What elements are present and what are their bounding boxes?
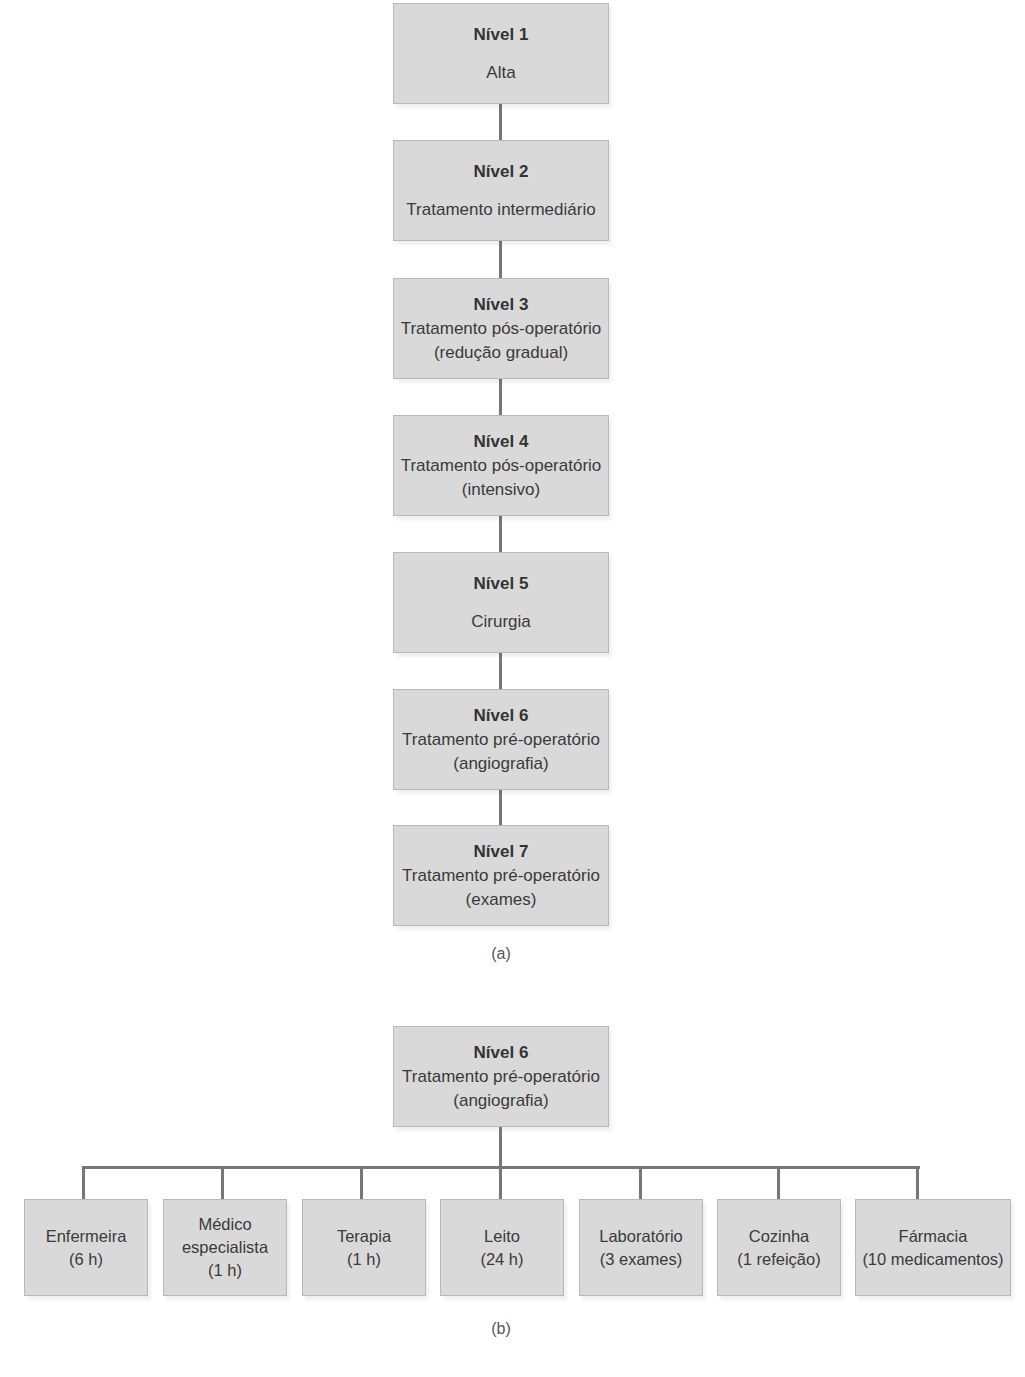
child-leito: Leito (24 h) — [440, 1199, 564, 1296]
child-enfermeira: Enfermeira (6 h) — [24, 1199, 148, 1296]
level-2-box: Nível 2 Tratamento intermediário — [393, 140, 609, 241]
level-desc: (angiografia) — [453, 752, 548, 776]
level-1-box: Nível 1 Alta — [393, 3, 609, 104]
level-desc: Tratamento pré-operatório — [402, 1065, 600, 1089]
level-desc: Tratamento pós-operatório — [401, 317, 602, 341]
child-connector — [916, 1166, 919, 1199]
level-desc: (angiografia) — [453, 1089, 548, 1113]
child-connector — [639, 1166, 642, 1199]
level-7-box: Nível 7 Tratamento pré-operatório (exame… — [393, 825, 609, 926]
caption-b: (b) — [471, 1320, 531, 1338]
child-value: (3 exames) — [600, 1248, 683, 1271]
level-desc: Tratamento pré-operatório — [402, 728, 600, 752]
level-desc: Cirurgia — [471, 610, 531, 634]
child-medico-especialista: Médico especialista (1 h) — [163, 1199, 287, 1296]
level-desc: (redução gradual) — [434, 341, 568, 365]
child-label: Enfermeira — [46, 1225, 127, 1248]
child-value: (10 medicamentos) — [862, 1248, 1003, 1271]
child-connector — [360, 1166, 363, 1199]
level-4-box: Nível 4 Tratamento pós-operatório (inten… — [393, 415, 609, 516]
level-title: Nível 5 — [474, 572, 529, 596]
child-label: Leito — [484, 1225, 520, 1248]
connector-1-2 — [499, 104, 502, 140]
level-5-box: Nível 5 Cirurgia — [393, 552, 609, 653]
caption-a: (a) — [471, 945, 531, 963]
level-desc: Tratamento pré-operatório — [402, 864, 600, 888]
child-label: Terapia — [337, 1225, 391, 1248]
child-value: (1 h) — [347, 1248, 381, 1271]
child-value: (1 h) — [208, 1259, 242, 1282]
child-connector — [82, 1166, 85, 1199]
connector-2-3 — [499, 241, 502, 278]
level-desc: Alta — [486, 61, 515, 85]
child-value: (6 h) — [69, 1248, 103, 1271]
child-cozinha: Cozinha (1 refeição) — [717, 1199, 841, 1296]
child-connector — [777, 1166, 780, 1199]
child-laboratorio: Laboratório (3 exames) — [579, 1199, 703, 1296]
level-3-box: Nível 3 Tratamento pós-operatório (reduç… — [393, 278, 609, 379]
child-farmacia: Fármacia (10 medicamentos) — [855, 1199, 1011, 1296]
child-label: especialista — [182, 1236, 268, 1259]
child-value: (1 refeição) — [737, 1248, 820, 1271]
level-title: Nível 2 — [474, 160, 529, 184]
level-desc: (intensivo) — [462, 478, 540, 502]
level-title: Nível 6 — [474, 1041, 529, 1065]
root-connector — [499, 1127, 502, 1168]
child-label: Laboratório — [599, 1225, 682, 1248]
child-value: (24 h) — [480, 1248, 523, 1271]
root-level-6-box: Nível 6 Tratamento pré-operatório (angio… — [393, 1026, 609, 1127]
level-title: Nível 6 — [474, 704, 529, 728]
level-desc: Tratamento pós-operatório — [401, 454, 602, 478]
connector-4-5 — [499, 516, 502, 552]
level-title: Nível 3 — [474, 293, 529, 317]
connector-6-7 — [499, 790, 502, 825]
level-title: Nível 4 — [474, 430, 529, 454]
connector-3-4 — [499, 379, 502, 415]
child-label: Cozinha — [749, 1225, 810, 1248]
connector-5-6 — [499, 653, 502, 689]
level-6-box: Nível 6 Tratamento pré-operatório (angio… — [393, 689, 609, 790]
level-desc: Tratamento intermediário — [406, 198, 595, 222]
child-connector — [499, 1166, 502, 1199]
child-connector — [221, 1166, 224, 1199]
level-title: Nível 1 — [474, 23, 529, 47]
child-label: Médico — [198, 1213, 251, 1236]
child-terapia: Terapia (1 h) — [302, 1199, 426, 1296]
level-title: Nível 7 — [474, 840, 529, 864]
child-label: Fármacia — [899, 1225, 968, 1248]
level-desc: (exames) — [466, 888, 537, 912]
